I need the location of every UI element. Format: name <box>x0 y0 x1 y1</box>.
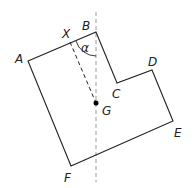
label-f: F <box>64 171 72 185</box>
label-a: A <box>14 52 23 66</box>
centre-of-mass-point <box>94 101 99 106</box>
label-alpha: α <box>81 41 89 55</box>
label-e: E <box>174 126 182 140</box>
label-g: G <box>102 104 111 118</box>
label-c: C <box>112 87 121 101</box>
label-x: X <box>61 27 71 41</box>
l-shape-outline <box>28 32 173 166</box>
l-shape-diagram: A B X α C D E F G <box>0 0 195 188</box>
label-d: D <box>148 55 157 69</box>
label-b: B <box>82 19 90 33</box>
